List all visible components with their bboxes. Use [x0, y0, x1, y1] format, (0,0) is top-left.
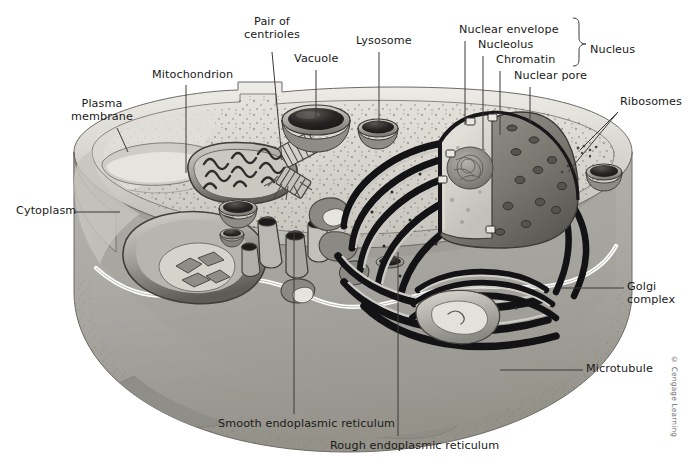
label-smooth-er: Smooth endoplasmic reticulum: [218, 418, 395, 431]
label-microtubule: Microtubule: [586, 363, 653, 376]
label-nuclear-envelope: Nuclear envelope: [459, 24, 559, 37]
label-lysosome: Lysosome: [356, 35, 412, 48]
label-golgi-complex: Golgi complex: [627, 281, 675, 306]
cell-diagram-figure: Plasma membrane Mitochondrion Pair of ce…: [0, 0, 690, 466]
label-nucleolus: Nucleolus: [478, 39, 533, 52]
label-nucleus: Nucleus: [590, 44, 635, 57]
label-plasma-membrane: Plasma membrane: [60, 98, 144, 123]
label-cytoplasm: Cytoplasm: [16, 205, 76, 218]
label-mitochondrion: Mitochondrion: [152, 69, 233, 82]
label-ribosomes: Ribosomes: [620, 96, 682, 109]
label-rough-er: Rough endoplasmic reticulum: [330, 440, 499, 453]
label-vacuole: Vacuole: [294, 53, 338, 66]
label-pair-of-centrioles: Pair of centrioles: [234, 16, 310, 41]
label-nuclear-pore: Nuclear pore: [514, 70, 587, 83]
label-chromatin: Chromatin: [496, 54, 555, 67]
nucleus: [438, 112, 578, 248]
copyright-credit: © Cengage Learning: [665, 355, 679, 425]
nucleus-bracket: [573, 18, 586, 66]
